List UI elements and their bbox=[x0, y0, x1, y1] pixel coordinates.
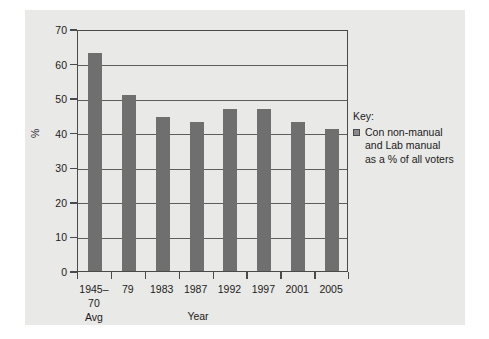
x-axis-tick bbox=[77, 272, 78, 279]
y-axis-tick-label: 60 bbox=[39, 60, 67, 70]
bar bbox=[122, 95, 136, 271]
x-axis-tick bbox=[145, 272, 146, 279]
y-axis-tick bbox=[70, 271, 77, 272]
y-axis-tick bbox=[70, 168, 77, 169]
bar bbox=[88, 53, 102, 271]
x-axis-tick bbox=[213, 272, 214, 279]
chart-figure: % Year Key: Con non-manual and Lab manua… bbox=[25, 10, 465, 325]
y-axis-tick-label: 0 bbox=[39, 267, 67, 277]
y-axis-tick-label: 50 bbox=[39, 94, 67, 104]
gridline bbox=[78, 65, 347, 66]
x-axis-tick bbox=[280, 272, 281, 279]
y-axis-tick-label: 70 bbox=[39, 25, 67, 35]
y-axis-tick-label: 30 bbox=[39, 163, 67, 173]
y-axis-tick bbox=[70, 29, 77, 30]
legend-label-line-2: and Lab manual bbox=[365, 139, 440, 151]
bar bbox=[223, 109, 237, 271]
y-axis-tick-label: 20 bbox=[39, 198, 67, 208]
y-axis-tick bbox=[70, 202, 77, 203]
plot-area bbox=[77, 30, 348, 272]
legend-label-line-1: Con non-manual bbox=[365, 126, 443, 138]
legend-label-line-3: as a % of all voters bbox=[365, 153, 454, 165]
legend-title: Key: bbox=[353, 110, 465, 124]
y-axis-tick bbox=[70, 98, 77, 99]
y-axis-tick bbox=[70, 133, 77, 134]
x-axis-tick bbox=[314, 272, 315, 279]
gridline bbox=[78, 238, 347, 239]
y-axis-tick-label: 40 bbox=[39, 129, 67, 139]
gridline bbox=[78, 100, 347, 101]
x-axis-tick-label: 2005 bbox=[301, 282, 361, 296]
bar bbox=[190, 122, 204, 271]
x-axis-tick bbox=[179, 272, 180, 279]
y-axis-tick-label: 10 bbox=[39, 232, 67, 242]
x-axis-tick bbox=[246, 272, 247, 279]
bar bbox=[156, 117, 170, 271]
legend-color-swatch bbox=[353, 129, 360, 136]
y-axis-tick bbox=[70, 237, 77, 238]
y-axis-tick bbox=[70, 64, 77, 65]
gridline bbox=[78, 203, 347, 204]
gridline bbox=[78, 134, 347, 135]
x-axis-tick bbox=[348, 272, 349, 279]
chart-legend: Key: Con non-manual and Lab manual as a … bbox=[353, 110, 465, 166]
x-axis-tick bbox=[111, 272, 112, 279]
gridline bbox=[78, 169, 347, 170]
bar bbox=[325, 129, 339, 271]
legend-item: Con non-manual and Lab manual as a % of … bbox=[353, 126, 465, 167]
bar bbox=[257, 109, 271, 271]
bar bbox=[291, 122, 305, 271]
